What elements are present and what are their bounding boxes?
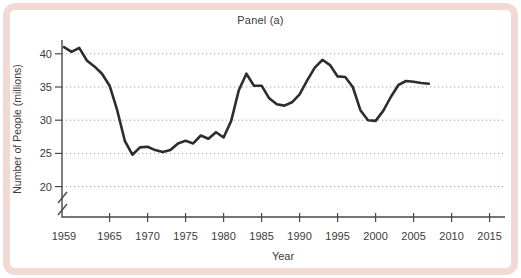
x-tick-label: 1975 xyxy=(173,230,197,242)
chart-title: Panel (a) xyxy=(0,14,521,26)
x-tick-label: 1990 xyxy=(287,230,311,242)
gridlines xyxy=(62,54,503,187)
axis-lines xyxy=(62,40,505,217)
x-tick-label: 1995 xyxy=(325,230,349,242)
y-tick-label: 40 xyxy=(40,48,52,60)
x-tick-label: 2010 xyxy=(439,230,463,242)
x-tick-label: 1970 xyxy=(135,230,159,242)
y-axis-title: Number of People (millions) xyxy=(11,64,23,194)
x-tick-label: 1985 xyxy=(249,230,273,242)
data-series-line xyxy=(64,47,429,155)
y-tick-label: 25 xyxy=(40,147,52,159)
x-tick-label: 1965 xyxy=(97,230,121,242)
tick-labels: 2025303540195919651970197519801985199019… xyxy=(40,48,502,242)
x-tick-label: 2000 xyxy=(363,230,387,242)
x-axis-title: Year xyxy=(272,250,294,262)
x-tick-label: 1980 xyxy=(211,230,235,242)
x-tick-label: 1959 xyxy=(52,230,76,242)
y-tick-label: 30 xyxy=(40,114,52,126)
y-tick-label: 35 xyxy=(40,81,52,93)
x-tick-label: 2005 xyxy=(401,230,425,242)
y-tick-label: 20 xyxy=(40,181,52,193)
poverty-line-series xyxy=(64,47,429,155)
line-chart: 2025303540195919651970197519801985199019… xyxy=(0,0,521,278)
x-tick-label: 2015 xyxy=(477,230,501,242)
